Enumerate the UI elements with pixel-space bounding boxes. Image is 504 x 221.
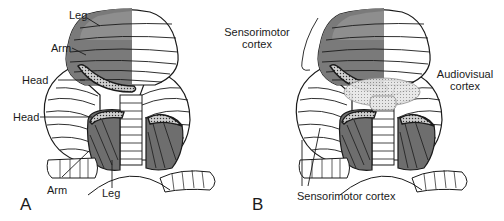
label-sensorimotor-top-line1: Sensorimotor (218, 26, 296, 38)
label-audiovisual-line2: cortex (428, 80, 502, 92)
label-head-upper: Head (22, 74, 48, 86)
label-sensorimotor-bottom: Sensorimotor cortex (297, 190, 395, 202)
label-arm-top: Arm (51, 42, 71, 54)
panel-b: Sensorimotor cortex Audiovisual cortex S… (252, 0, 502, 221)
label-sensorimotor-top-line2: cortex (218, 38, 296, 50)
panel-a: Leg Arm Head Head Arm Leg A (0, 0, 250, 221)
label-arm-bottom: Arm (47, 184, 67, 196)
panel-letter-b: B (252, 196, 263, 214)
label-head-lower: Head (13, 111, 39, 123)
label-audiovisual-line1: Audiovisual (428, 68, 502, 80)
panel-letter-a: A (20, 196, 31, 214)
label-leg-bottom: Leg (102, 187, 120, 199)
label-leg-top: Leg (69, 9, 87, 21)
